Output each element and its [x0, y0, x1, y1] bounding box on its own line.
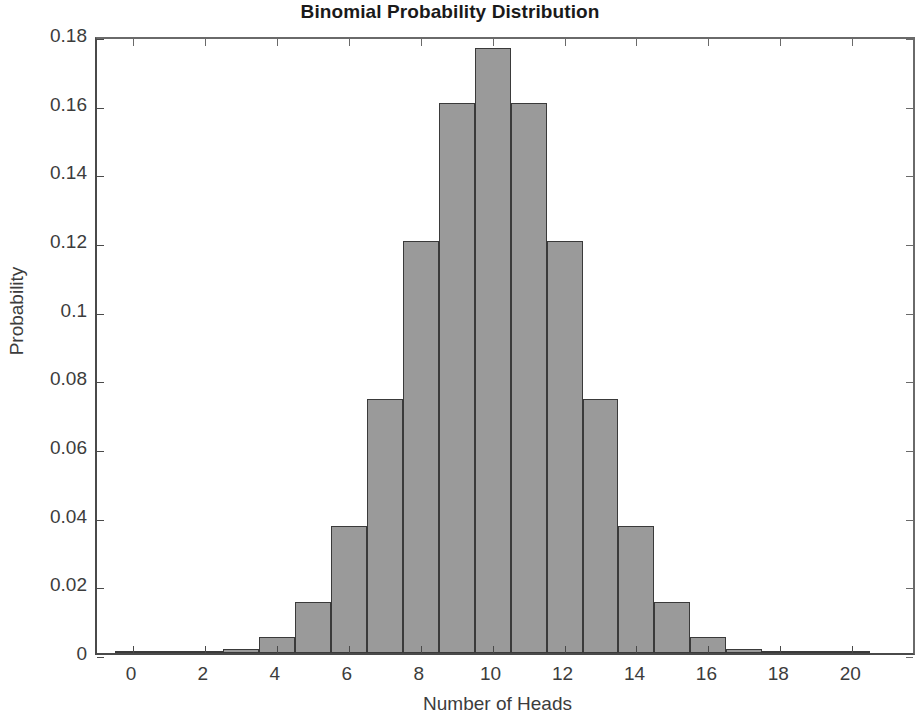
x-tick-top	[708, 39, 709, 46]
x-tick	[708, 646, 709, 653]
y-tick-label: 0.18	[3, 25, 87, 47]
x-tick-top	[852, 39, 853, 46]
x-tick	[277, 646, 278, 653]
y-tick-right	[906, 657, 913, 658]
y-tick-label: 0.04	[3, 506, 87, 528]
y-tick-label: 0.12	[3, 231, 87, 253]
x-tick-label: 2	[173, 663, 233, 685]
x-tick-top	[349, 39, 350, 46]
x-tick	[133, 646, 134, 653]
y-tick-label: 0.08	[3, 368, 87, 390]
x-tick	[421, 646, 422, 653]
x-tick	[205, 646, 206, 653]
y-tick	[97, 520, 104, 521]
y-tick-label: 0.1	[3, 300, 87, 322]
y-tick	[97, 382, 104, 383]
x-tick-label: 8	[389, 663, 449, 685]
y-tick	[97, 39, 104, 40]
x-tick-top	[565, 39, 566, 46]
x-axis-label: Number of Heads	[95, 693, 900, 715]
y-tick	[97, 657, 104, 658]
x-tick-top	[277, 39, 278, 46]
x-tick	[780, 646, 781, 653]
x-tick-top	[780, 39, 781, 46]
y-tick-label: 0.06	[3, 437, 87, 459]
y-tick	[97, 176, 104, 177]
plot-area	[95, 37, 915, 655]
y-tick-right	[906, 451, 913, 452]
x-tick-label: 12	[533, 663, 593, 685]
y-tick-label: 0.16	[3, 94, 87, 116]
y-tick-label: 0.14	[3, 162, 87, 184]
y-tick-right	[906, 176, 913, 177]
x-tick	[349, 646, 350, 653]
x-tick-top	[421, 39, 422, 46]
x-tick	[852, 646, 853, 653]
y-tick-label: 0.02	[3, 574, 87, 596]
x-tick-top	[133, 39, 134, 46]
y-tick-right	[906, 520, 913, 521]
y-tick	[97, 451, 104, 452]
y-tick-right	[906, 39, 913, 40]
x-tick-top	[205, 39, 206, 46]
y-tick-right	[906, 588, 913, 589]
y-tick-right	[906, 314, 913, 315]
x-tick-label: 20	[820, 663, 880, 685]
y-tick-right	[906, 382, 913, 383]
x-tick-label: 14	[604, 663, 664, 685]
x-tick-label: 16	[676, 663, 736, 685]
y-tick	[97, 108, 104, 109]
x-tick-top	[636, 39, 637, 46]
x-tick	[636, 646, 637, 653]
x-tick-label: 0	[101, 663, 161, 685]
x-tick-top	[493, 39, 494, 46]
y-tick	[97, 245, 104, 246]
x-tick-label: 18	[748, 663, 808, 685]
ticks-layer	[97, 39, 913, 653]
y-tick-right	[906, 245, 913, 246]
x-tick-label: 6	[317, 663, 377, 685]
y-tick-label: 0	[3, 643, 87, 665]
x-tick-label: 10	[461, 663, 521, 685]
x-tick	[493, 646, 494, 653]
page-title: Binomial Probability Distribution	[0, 1, 900, 23]
y-tick	[97, 314, 104, 315]
y-tick-right	[906, 108, 913, 109]
x-tick-label: 4	[245, 663, 305, 685]
y-tick	[97, 588, 104, 589]
x-tick	[565, 646, 566, 653]
